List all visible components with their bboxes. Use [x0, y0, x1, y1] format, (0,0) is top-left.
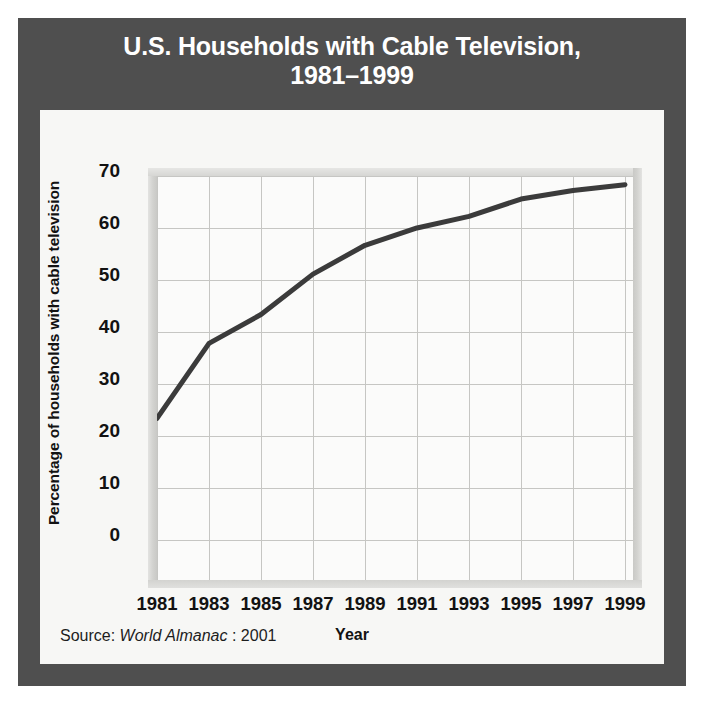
- x-tick-label-1999: 1999: [594, 595, 656, 614]
- y-tick-label-10: 10: [74, 473, 120, 492]
- plot-inner: [157, 176, 633, 580]
- y-axis-title: Percentage of households with cable tele…: [39, 118, 69, 588]
- plot-bevel-right: [633, 168, 642, 588]
- y-tick-label-20: 20: [74, 421, 120, 440]
- title-band: U.S. Households with Cable Television, 1…: [18, 18, 686, 104]
- source-publication: World Almanac: [120, 627, 228, 644]
- y-axis-title-text: Percentage of households with cable tele…: [45, 181, 63, 525]
- source-prefix: Source:: [60, 627, 115, 644]
- page-title: U.S. Households with Cable Television, 1…: [95, 32, 608, 91]
- y-tick-label-40: 40: [74, 317, 120, 336]
- plot-area: [148, 168, 642, 588]
- figure-page: U.S. Households with Cable Television, 1…: [0, 0, 704, 705]
- y-tick-label-60: 60: [74, 213, 120, 232]
- figure-outer-frame: U.S. Households with Cable Television, 1…: [18, 18, 686, 686]
- source-note: Source: World Almanac : 2001: [60, 627, 276, 645]
- plot-bevel-top: [148, 168, 642, 176]
- y-tick-label-0: 0: [74, 525, 120, 544]
- chart-panel: Percentage of households with cable tele…: [40, 110, 664, 664]
- source-suffix: : 2001: [232, 627, 276, 644]
- data-series-line: [157, 176, 633, 580]
- y-tick-label-50: 50: [74, 265, 120, 284]
- plot-bevel-left: [148, 168, 157, 588]
- plot-bevel-bottom: [148, 580, 642, 588]
- y-tick-label-30: 30: [74, 369, 120, 388]
- y-tick-label-70: 70: [74, 161, 120, 180]
